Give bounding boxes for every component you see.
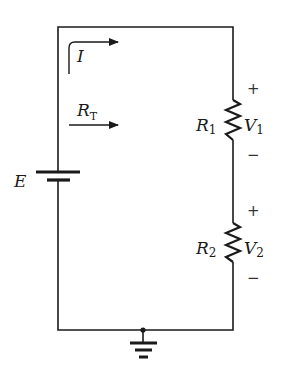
r2-label: R2 xyxy=(195,238,216,260)
r2-minus-sign: − xyxy=(247,269,260,287)
ground-icon xyxy=(130,327,157,357)
source-label: E xyxy=(13,171,27,191)
r1-minus-sign: − xyxy=(247,146,260,164)
v2-label: V2 xyxy=(244,238,264,260)
r1-label: R1 xyxy=(195,115,216,137)
resistor-r1: + − R1 V1 xyxy=(195,80,264,164)
v1-label: V1 xyxy=(244,115,264,137)
resistor-icon xyxy=(226,223,240,262)
total-resistance-label: RT xyxy=(76,100,98,123)
r2-plus-sign: + xyxy=(247,202,260,220)
series-circuit-diagram: E I RT + − R1 V1 + − R2 V2 xyxy=(0,0,285,386)
r1-plus-sign: + xyxy=(247,80,260,98)
current-label: I xyxy=(76,46,84,66)
resistor-r2: + − R2 V2 xyxy=(195,202,264,287)
resistor-icon xyxy=(226,100,240,140)
circuit-wires xyxy=(58,27,233,330)
battery-icon xyxy=(36,172,80,180)
